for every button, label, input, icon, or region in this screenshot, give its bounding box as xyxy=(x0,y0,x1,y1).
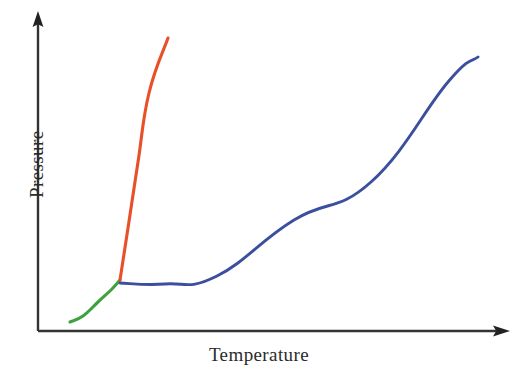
fusion-curve xyxy=(120,38,168,280)
phase-diagram-figure: Pressure Temperature xyxy=(0,0,518,380)
vaporization-curve xyxy=(120,57,478,285)
x-axis xyxy=(38,325,510,336)
x-axis-label: Temperature xyxy=(0,344,518,366)
y-axis-label: Pressure xyxy=(26,130,48,198)
sublimation-curve xyxy=(70,280,120,322)
phase-diagram-canvas xyxy=(0,0,518,380)
